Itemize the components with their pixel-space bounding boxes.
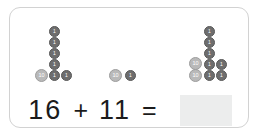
counter-value-label: 1 <box>220 73 223 78</box>
counter-value-label: 1 <box>53 29 56 34</box>
answer-input-box[interactable] <box>180 95 232 126</box>
counter-value-label: 10 <box>192 61 198 67</box>
second-addend-text: 11 <box>99 97 131 124</box>
counter-value-label: 1 <box>65 73 68 78</box>
one-counter-coin: 1 <box>204 70 215 81</box>
first-addend-text: 16 <box>28 97 62 124</box>
counter-value-label: 1 <box>53 40 56 45</box>
equation-row: 16 + 11 = <box>10 92 250 129</box>
counter-value-label: 1 <box>129 73 132 78</box>
worksheet-card: 11111101 101 11111101011 16 + 11 = <box>9 7 249 128</box>
counter-value-label: 1 <box>208 51 211 56</box>
one-counter-coin: 1 <box>61 70 72 81</box>
equals-sign: = <box>142 98 157 123</box>
counter-value-label: 1 <box>208 40 211 45</box>
one-counter-coin: 1 <box>49 37 60 48</box>
one-counter-coin: 1 <box>125 70 136 81</box>
counter-value-label: 1 <box>53 62 56 67</box>
one-counter-coin: 1 <box>49 70 60 81</box>
one-counter-coin: 1 <box>216 59 227 70</box>
counter-value-label: 1 <box>53 73 56 78</box>
one-counter-coin: 1 <box>216 70 227 81</box>
ten-counter-coin: 10 <box>35 69 48 82</box>
counter-value-label: 1 <box>208 73 211 78</box>
plus-sign: + <box>73 98 88 123</box>
one-counter-coin: 1 <box>49 59 60 70</box>
counter-value-label: 1 <box>220 62 223 67</box>
one-counter-coin: 1 <box>204 26 215 37</box>
ten-counter-coin: 10 <box>109 69 122 82</box>
counter-value-label: 1 <box>53 51 56 56</box>
one-counter-coin: 1 <box>49 48 60 59</box>
one-counter-coin: 1 <box>204 48 215 59</box>
one-counter-coin: 1 <box>204 37 215 48</box>
ten-counter-coin: 10 <box>189 69 202 82</box>
counter-value-label: 10 <box>192 73 198 79</box>
one-counter-coin: 1 <box>49 26 60 37</box>
counter-value-label: 1 <box>208 62 211 67</box>
counter-value-label: 10 <box>112 73 118 79</box>
counter-value-label: 10 <box>38 73 44 79</box>
counter-value-label: 1 <box>208 29 211 34</box>
one-counter-coin: 1 <box>204 59 215 70</box>
